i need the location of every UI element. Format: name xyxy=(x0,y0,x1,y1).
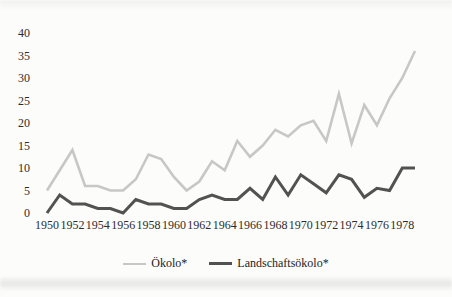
x-tick-label: 1950 xyxy=(35,218,59,232)
scan-shadow-bottom xyxy=(0,276,452,291)
series-line-landschaftsokolo xyxy=(47,168,415,213)
x-tick-label: 1962 xyxy=(187,218,211,232)
line-chart: 0510152025303540195019521954195619581960… xyxy=(0,0,452,250)
y-tick-label: 0 xyxy=(24,206,30,220)
y-tick-label: 30 xyxy=(18,71,30,85)
legend-item-landschaftsokolo: Landschaftsökolo* xyxy=(209,256,328,271)
x-tick-label: 1976 xyxy=(365,218,389,232)
y-tick-label: 20 xyxy=(18,116,30,130)
x-tick-label: 1972 xyxy=(314,218,338,232)
legend-label-landschaftsokolo: Landschaftsökolo* xyxy=(237,256,328,271)
y-tick-label: 25 xyxy=(18,94,30,108)
x-tick-label: 1966 xyxy=(238,218,262,232)
legend-line-swatch-okolo xyxy=(123,263,146,265)
y-tick-label: 15 xyxy=(18,139,30,153)
x-tick-label: 1952 xyxy=(60,218,84,232)
x-tick-label: 1956 xyxy=(111,218,135,232)
x-tick-label: 1964 xyxy=(213,218,237,232)
x-tick-label: 1970 xyxy=(289,218,313,232)
series-line-okolo xyxy=(47,51,415,191)
legend-line-swatch-landschaftsokolo xyxy=(209,262,232,265)
legend-item-okolo: Ökolo* xyxy=(123,256,187,271)
chart-figure: 0510152025303540195019521954195619581960… xyxy=(0,0,452,297)
y-tick-label: 10 xyxy=(18,161,30,175)
x-tick-label: 1968 xyxy=(263,218,287,232)
y-tick-label: 35 xyxy=(18,49,30,63)
x-tick-label: 1954 xyxy=(86,218,110,232)
legend-label-okolo: Ökolo* xyxy=(151,256,187,271)
x-tick-label: 1978 xyxy=(390,218,414,232)
x-tick-label: 1958 xyxy=(137,218,161,232)
y-tick-label: 40 xyxy=(18,26,30,40)
y-tick-label: 5 xyxy=(24,184,30,198)
x-tick-label: 1960 xyxy=(162,218,186,232)
x-tick-label: 1974 xyxy=(340,218,364,232)
chart-legend: Ökolo* Landschaftsökolo* xyxy=(0,256,452,271)
